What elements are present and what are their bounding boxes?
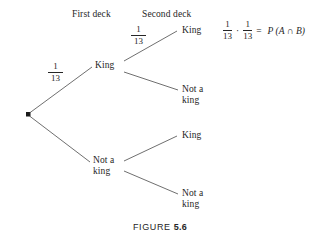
formula-fraction-one-denominator: 13 [223,32,232,42]
node-first-deck-not-king: Not a king [93,155,114,176]
formula-result: P (A ∩ B) [268,26,305,36]
formula-fraction-two: 1 13 [243,20,252,41]
formula-fraction-one: 1 13 [223,20,232,41]
node-second-deck-not-king-lower: Not a king [182,188,203,209]
branch-not-king-to-king [124,136,177,161]
node-first-deck-king: King [95,60,114,71]
branch-king-to-not-king [124,72,178,90]
figure-container: First deck Second deck 1 13 1 13 King No… [0,0,330,243]
figure-caption: FIGURE 5.6 [133,222,187,232]
probability-second-king: 1 13 [131,25,146,46]
figure-caption-number: 5.6 [174,222,187,232]
branch-root-to-not-king [30,116,91,162]
node-second-deck-not-king-upper: Not a king [182,84,203,105]
formula-equals-sign: = [256,26,261,36]
probability-first-king-numerator: 1 [48,62,63,72]
formula-fraction-one-numerator: 1 [223,20,232,30]
branch-not-king-to-not-king [124,171,178,194]
node-second-deck-king-lower: King [182,130,201,141]
formula-fraction-two-denominator: 13 [243,32,252,42]
probability-first-king: 1 13 [48,62,63,83]
figure-caption-prefix: FIGURE [133,222,171,232]
probability-second-king-numerator: 1 [131,25,146,35]
header-first-deck: First deck [72,9,111,19]
formula-operator: · [236,26,239,36]
header-second-deck: Second deck [142,9,191,19]
probability-first-king-denominator: 13 [48,74,63,84]
probability-formula: 1 13 · 1 13 = P (A ∩ B) [222,20,305,41]
formula-fraction-two-numerator: 1 [243,20,252,30]
probability-second-king-denominator: 13 [131,37,146,47]
node-second-deck-king-upper: King [182,25,201,36]
